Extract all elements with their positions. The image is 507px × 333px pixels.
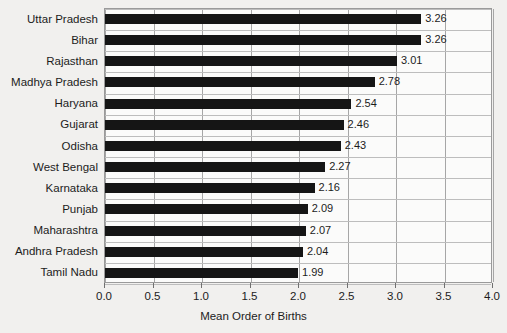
bar-row: 2.07: [105, 221, 491, 242]
bar-value-label: 2.78: [379, 74, 400, 89]
y-axis-category-label: Madhya Pradesh: [0, 75, 98, 89]
bar: [105, 120, 344, 130]
y-axis-category-label: Odisha: [0, 139, 98, 153]
y-axis-category-label: West Bengal: [0, 160, 98, 174]
bar-row: 2.54: [105, 94, 491, 115]
bar: [105, 247, 303, 257]
gridline-vertical: [493, 9, 494, 282]
bar-row: 3.26: [105, 30, 491, 51]
bar-value-label: 2.16: [319, 180, 340, 195]
y-axis-category-label: Uttar Pradesh: [0, 12, 98, 26]
bar-row: 2.16: [105, 178, 491, 199]
bar-row: 2.27: [105, 157, 491, 178]
bar-value-label: 2.46: [348, 117, 369, 132]
bar: [105, 14, 421, 24]
bar-value-label: 2.07: [310, 223, 331, 238]
bar: [105, 268, 298, 278]
x-axis-tick-label: 3.5: [436, 289, 452, 303]
bar-row: 2.04: [105, 242, 491, 263]
bar-row: 2.43: [105, 136, 491, 157]
x-axis-tick-mark: [444, 283, 445, 288]
bar-value-label: 2.04: [307, 244, 328, 259]
bar-value-label: 2.43: [345, 138, 366, 153]
bar: [105, 99, 351, 109]
bar: [105, 77, 375, 87]
bar-row: 2.46: [105, 115, 491, 136]
bar-row: 3.01: [105, 51, 491, 72]
x-axis-tick-mark: [298, 283, 299, 288]
x-axis-tick-mark: [250, 283, 251, 288]
y-axis-category-label: Haryana: [0, 96, 98, 110]
bar-value-label: 2.09: [312, 201, 333, 216]
x-axis-tick-label: 4.0: [484, 289, 500, 303]
x-axis-tick-label: 2.0: [290, 289, 306, 303]
bar: [105, 141, 341, 151]
y-axis-category-labels: Uttar PradeshBiharRajasthanMadhya Prades…: [0, 8, 98, 283]
y-axis-category-label: Karnataka: [0, 181, 98, 195]
bar: [105, 56, 397, 66]
bar-value-label: 3.26: [425, 11, 446, 26]
y-axis-category-label: Maharashtra: [0, 223, 98, 237]
bar-value-label: 2.54: [355, 96, 376, 111]
bar: [105, 162, 325, 172]
x-axis-tick-mark: [201, 283, 202, 288]
x-axis-tick-mark: [492, 283, 493, 288]
plot-area: 3.263.263.012.782.542.462.432.272.162.09…: [104, 8, 492, 283]
x-axis-tick-label: 0.5: [145, 289, 161, 303]
x-axis-tick-label: 1.5: [242, 289, 258, 303]
x-axis-title: Mean Order of Births: [0, 309, 507, 323]
bar-row: 2.78: [105, 72, 491, 93]
x-axis-tick-mark: [395, 283, 396, 288]
bar: [105, 35, 421, 45]
x-axis-tick-label: 3.0: [387, 289, 403, 303]
x-axis-tick-label: 1.0: [193, 289, 209, 303]
y-axis-category-label: Punjab: [0, 202, 98, 216]
x-axis-tick-mark: [347, 283, 348, 288]
bar-value-label: 2.27: [329, 159, 350, 174]
bar-chart-figure: 3.263.263.012.782.542.462.432.272.162.09…: [0, 0, 507, 333]
y-axis-category-label: Rajasthan: [0, 54, 98, 68]
x-axis-tick-label: 2.5: [339, 289, 355, 303]
y-axis-category-label: Tamil Nadu: [0, 265, 98, 279]
y-axis-category-label: Bihar: [0, 33, 98, 47]
x-axis-tick-mark: [153, 283, 154, 288]
bar-row: 3.26: [105, 9, 491, 30]
bar: [105, 183, 315, 193]
y-axis-category-label: Gujarat: [0, 117, 98, 131]
x-axis: 0.00.51.01.52.02.53.03.54.0: [104, 283, 492, 305]
x-axis-tick-label: 0.0: [96, 289, 112, 303]
bar-row: 2.09: [105, 199, 491, 220]
bar-value-label: 1.99: [302, 265, 323, 280]
bar-value-label: 3.26: [425, 32, 446, 47]
x-axis-tick-mark: [104, 283, 105, 288]
bar: [105, 204, 308, 214]
bar: [105, 226, 306, 236]
bar-value-label: 3.01: [401, 53, 422, 68]
y-axis-category-label: Andhra Pradesh: [0, 244, 98, 258]
bar-row: 1.99: [105, 263, 491, 284]
